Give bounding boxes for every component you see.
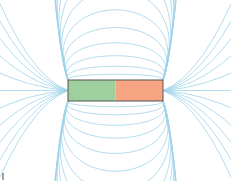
magnet-field-diagram (0, 0, 231, 181)
magnet-right-pole (116, 80, 164, 101)
field-lines-canvas (0, 0, 231, 181)
magnet-left-pole (68, 80, 116, 101)
